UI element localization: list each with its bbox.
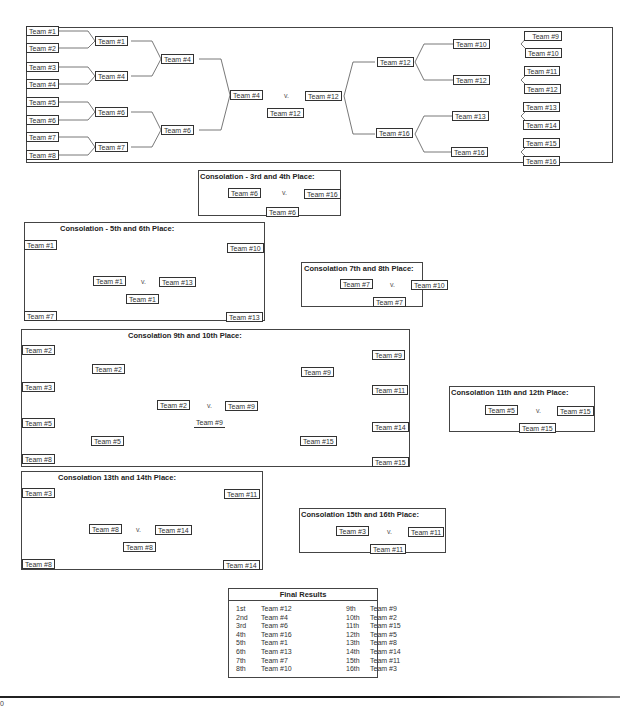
team-slot[interactable]: Team #6: [26, 115, 59, 125]
team-slot[interactable]: Team #5: [91, 436, 124, 446]
team-slot[interactable]: Team #3: [26, 62, 59, 72]
team-slot[interactable]: Team #4: [26, 79, 59, 89]
result-team: Team #2: [370, 614, 397, 621]
team-slot[interactable]: Team #16: [376, 128, 413, 138]
team-slot[interactable]: Team #14: [372, 422, 409, 432]
result-team: Team #6: [261, 622, 288, 629]
team-slot[interactable]: Team #3: [336, 526, 369, 536]
team-slot[interactable]: Team #2: [92, 364, 125, 374]
vs-label: v.: [387, 528, 392, 535]
team-slot[interactable]: Team #2: [157, 400, 190, 410]
team-slot[interactable]: Team #8: [26, 150, 59, 160]
team-slot[interactable]: Team #1: [26, 26, 59, 36]
team-slot[interactable]: Team #16: [451, 147, 488, 157]
panel-title: Consolation 13th and 14th Place:: [58, 473, 176, 482]
team-slot[interactable]: Team #8: [22, 454, 55, 464]
team-slot[interactable]: Team #12: [377, 57, 414, 67]
result-place: 7th: [236, 657, 246, 664]
team-slot[interactable]: Team #5: [22, 418, 55, 428]
team-slot[interactable]: Team #14: [223, 560, 260, 570]
team-slot[interactable]: Team #9: [301, 367, 334, 377]
team-slot[interactable]: Team #11: [408, 527, 444, 537]
winner-slot[interactable]: Team #9: [194, 418, 225, 428]
team-slot[interactable]: Team #4: [161, 54, 194, 64]
finalist-right[interactable]: Team #12: [305, 91, 342, 101]
result-team: Team #13: [261, 648, 292, 655]
result-place: 11th: [346, 622, 359, 629]
team-slot[interactable]: Team #10: [227, 243, 264, 253]
team-slot[interactable]: Team #15: [372, 457, 409, 467]
team-slot[interactable]: Team #7: [340, 279, 373, 289]
team-slot[interactable]: Team #2: [26, 43, 59, 53]
team-slot[interactable]: Team #15: [557, 406, 594, 416]
winner-slot[interactable]: Team #8: [123, 542, 156, 552]
team-slot[interactable]: Team #9: [372, 350, 405, 360]
finalist-left[interactable]: Team #4: [230, 90, 263, 100]
result-team: Team #5: [370, 631, 397, 638]
team-slot[interactable]: Team #2: [22, 345, 55, 355]
result-place: 4th: [236, 631, 246, 638]
team-slot[interactable]: Team #14: [155, 525, 192, 535]
team-slot[interactable]: Team #3: [22, 382, 55, 392]
result-team: Team #12: [261, 605, 292, 612]
winner-slot[interactable]: Team #11: [370, 544, 406, 554]
team-slot[interactable]: Team #3: [22, 488, 55, 498]
team-slot[interactable]: Team #11: [524, 66, 560, 76]
team-slot[interactable]: Team #11: [372, 385, 408, 395]
winner-slot[interactable]: Team #6: [266, 207, 299, 217]
team-slot[interactable]: Team #12: [453, 75, 490, 85]
panel-title: Consolation - 5th and 6th Place:: [60, 224, 174, 233]
team-slot[interactable]: Team #8: [89, 524, 122, 534]
winner-slot[interactable]: Team #1: [126, 294, 159, 304]
champion-slot[interactable]: Team #12: [267, 108, 304, 118]
result-team: Team #14: [370, 648, 401, 655]
team-slot[interactable]: Team #1: [93, 276, 126, 286]
result-team: Team #3: [370, 665, 397, 672]
team-slot[interactable]: Team #6: [228, 188, 261, 198]
panel-title: Consolation 7th and 8th Place:: [304, 264, 414, 273]
result-place: 2nd: [236, 614, 248, 621]
team-slot[interactable]: Team #10: [525, 48, 562, 58]
result-place: 16th: [346, 665, 360, 672]
team-slot[interactable]: Team #12: [524, 84, 561, 94]
team-slot[interactable]: Team #7: [26, 132, 59, 142]
team-slot[interactable]: Team #13: [452, 111, 489, 121]
team-slot[interactable]: Team #10: [453, 39, 490, 49]
panel-title: Consolation - 3rd and 4th Place:: [200, 172, 315, 181]
team-slot[interactable]: Team #5: [485, 405, 518, 415]
team-slot[interactable]: Team #11: [224, 489, 260, 499]
team-slot[interactable]: Team #14: [523, 120, 560, 130]
team-slot[interactable]: Team #15: [300, 436, 337, 446]
vs-label: v.: [284, 92, 289, 99]
winner-slot[interactable]: Team #7: [373, 297, 406, 307]
team-slot[interactable]: Team #13: [523, 102, 560, 112]
result-place: 15th: [346, 657, 360, 664]
final-results-title: Final Results: [229, 589, 377, 601]
team-slot[interactable]: Team #16: [304, 189, 341, 199]
team-slot[interactable]: Team #9: [524, 31, 562, 41]
panel-title: Consolation 15th and 16th Place:: [301, 510, 419, 519]
team-slot[interactable]: Team #7: [24, 311, 57, 321]
vs-label: v.: [536, 407, 541, 414]
team-slot[interactable]: Team #5: [26, 97, 59, 107]
team-slot[interactable]: Team #13: [226, 312, 263, 322]
vs-label: v.: [141, 278, 146, 285]
team-slot[interactable]: Team #4: [95, 71, 128, 81]
result-place: 14th: [346, 648, 360, 655]
team-slot[interactable]: Team #1: [95, 36, 128, 46]
team-slot[interactable]: Team #16: [523, 156, 560, 166]
team-slot[interactable]: Team #6: [161, 125, 194, 135]
team-slot[interactable]: Team #9: [225, 401, 258, 411]
result-team: Team #9: [370, 605, 397, 612]
team-slot[interactable]: Team #1: [24, 240, 57, 250]
result-place: 12th: [346, 631, 360, 638]
team-slot[interactable]: Team #10: [411, 280, 448, 290]
result-team: Team #8: [370, 639, 397, 646]
team-slot[interactable]: Team #8: [22, 559, 55, 569]
team-slot[interactable]: Team #15: [523, 138, 560, 148]
team-slot[interactable]: Team #13: [159, 277, 196, 287]
team-slot[interactable]: Team #6: [95, 107, 128, 117]
result-place: 5th: [236, 639, 246, 646]
winner-slot[interactable]: Team #15: [519, 423, 556, 433]
team-slot[interactable]: Team #7: [95, 142, 128, 152]
